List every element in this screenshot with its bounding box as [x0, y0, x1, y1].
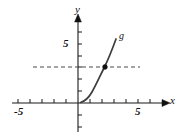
y-axis: [75, 14, 82, 132]
x-tick-label-pos5: 5: [135, 106, 141, 117]
plot-canvas: [0, 0, 183, 137]
x-axis-label: x: [170, 95, 175, 106]
curve-label-g: g: [119, 31, 124, 41]
y-axis-arrowhead: [75, 14, 82, 22]
x-axis-arrowhead: [162, 100, 170, 107]
x-tick-label-neg5: -5: [14, 106, 23, 117]
graph-figure: y x 5 -5 5 g: [0, 0, 183, 137]
y-tick-label-5: 5: [63, 38, 69, 49]
x-axis: [12, 99, 170, 107]
function-curve-g: [81, 39, 117, 103]
intersection-point-marker: [103, 65, 108, 70]
y-axis-ticks: [78, 32, 82, 127]
y-axis-label: y: [75, 4, 80, 15]
